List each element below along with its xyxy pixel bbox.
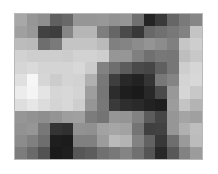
heatmap-cell xyxy=(120,38,132,50)
heatmap-cell xyxy=(179,111,191,123)
heatmap-cell xyxy=(144,99,156,111)
heatmap-cell xyxy=(27,74,39,86)
heatmap-cell xyxy=(97,123,109,135)
heatmap-cell xyxy=(85,147,97,159)
heatmap-cell xyxy=(190,99,202,111)
heatmap-cell xyxy=(50,26,62,38)
heatmap-cell xyxy=(167,62,179,74)
heatmap-cell xyxy=(50,62,62,74)
heatmap-cell xyxy=(38,86,50,98)
heatmap-cell xyxy=(85,50,97,62)
heatmap-cell xyxy=(27,50,39,62)
heatmap-cell xyxy=(120,62,132,74)
heatmap-cell xyxy=(132,50,144,62)
heatmap-cell xyxy=(190,74,202,86)
heatmap-cell xyxy=(167,135,179,147)
heatmap-cell xyxy=(190,147,202,159)
heatmap-cell xyxy=(97,38,109,50)
heatmap-cell xyxy=(190,38,202,50)
heatmap-cell xyxy=(144,74,156,86)
heatmap-cell xyxy=(62,62,74,74)
heatmap-cell xyxy=(144,135,156,147)
heatmap-cell xyxy=(27,135,39,147)
heatmap-cell xyxy=(109,99,121,111)
heatmap-cell xyxy=(27,123,39,135)
heatmap-cell xyxy=(190,123,202,135)
heatmap-cell xyxy=(73,14,85,26)
heatmap-cell xyxy=(155,111,167,123)
heatmap-cell xyxy=(132,147,144,159)
heatmap-cell xyxy=(120,14,132,26)
heatmap-cell xyxy=(167,147,179,159)
heatmap-cell xyxy=(27,111,39,123)
heatmap-cell xyxy=(15,86,27,98)
heatmap-cell xyxy=(38,111,50,123)
heatmap-cell xyxy=(97,62,109,74)
heatmap-cell xyxy=(132,86,144,98)
heatmap-cell xyxy=(179,50,191,62)
heatmap-cell xyxy=(155,86,167,98)
heatmap-cell xyxy=(15,99,27,111)
heatmap-cell xyxy=(190,135,202,147)
heatmap-cell xyxy=(50,147,62,159)
heatmap-cell xyxy=(155,147,167,159)
heatmap-cell xyxy=(190,26,202,38)
heatmap-cell xyxy=(109,123,121,135)
heatmap-cell xyxy=(97,147,109,159)
heatmap-cell xyxy=(132,99,144,111)
heatmap-cell xyxy=(144,123,156,135)
heatmap-cell xyxy=(120,99,132,111)
heatmap-cell xyxy=(73,147,85,159)
heatmap-cell xyxy=(15,147,27,159)
heatmap-cell xyxy=(120,26,132,38)
heatmap-cell xyxy=(27,62,39,74)
heatmap-cell xyxy=(179,74,191,86)
heatmap-cell xyxy=(27,99,39,111)
heatmap-cell xyxy=(132,123,144,135)
heatmap-image-frame xyxy=(14,13,203,160)
heatmap-cell xyxy=(85,14,97,26)
heatmap-cell xyxy=(179,14,191,26)
heatmap-cell xyxy=(15,74,27,86)
heatmap-cell xyxy=(132,26,144,38)
heatmap-cell xyxy=(27,38,39,50)
heatmap-cell xyxy=(167,38,179,50)
heatmap-cell xyxy=(38,74,50,86)
heatmap-cell xyxy=(167,14,179,26)
heatmap-cell xyxy=(155,99,167,111)
heatmap-cell xyxy=(15,14,27,26)
heatmap-cell xyxy=(38,26,50,38)
heatmap-cell xyxy=(50,111,62,123)
heatmap-cell xyxy=(167,111,179,123)
heatmap-cell xyxy=(167,86,179,98)
heatmap-cell xyxy=(73,86,85,98)
heatmap-cell xyxy=(97,135,109,147)
heatmap-cell xyxy=(62,135,74,147)
heatmap-cell xyxy=(144,38,156,50)
heatmap-cell xyxy=(155,26,167,38)
heatmap-cell xyxy=(132,135,144,147)
heatmap-cell xyxy=(179,86,191,98)
heatmap-cell xyxy=(85,123,97,135)
heatmap-cell xyxy=(155,123,167,135)
heatmap-cell xyxy=(50,123,62,135)
heatmap-cell xyxy=(62,38,74,50)
heatmap-cell xyxy=(85,26,97,38)
heatmap-cell xyxy=(179,62,191,74)
heatmap-cell xyxy=(132,38,144,50)
heatmap-cell xyxy=(97,111,109,123)
heatmap-cell xyxy=(144,26,156,38)
figure-root xyxy=(0,0,218,174)
heatmap-cell xyxy=(38,38,50,50)
heatmap-cell xyxy=(50,38,62,50)
heatmap-cell xyxy=(109,74,121,86)
heatmap-cell xyxy=(144,86,156,98)
heatmap-cell xyxy=(15,123,27,135)
heatmap-cell xyxy=(38,135,50,147)
heatmap-cell xyxy=(190,111,202,123)
heatmap-grid xyxy=(15,14,202,159)
heatmap-cell xyxy=(97,86,109,98)
heatmap-cell xyxy=(85,62,97,74)
heatmap-cell xyxy=(155,74,167,86)
heatmap-cell xyxy=(109,38,121,50)
